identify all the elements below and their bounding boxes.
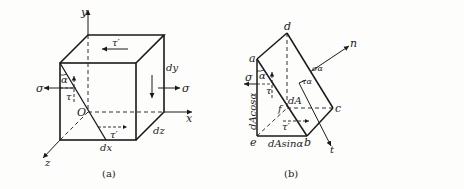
figure-b — [244, 33, 349, 146]
stress-element-figure: y x z O dx dy dz σ σ τ τ′ τ′ α (a) — [0, 0, 464, 189]
n-axis-label: n — [350, 37, 357, 50]
sigma-right-label: σ — [182, 82, 190, 95]
vertex-a: a — [249, 52, 256, 65]
tau-prime-bottom-label: τ′ — [110, 129, 119, 140]
x-axis-label: x — [186, 112, 193, 125]
origin-label: O — [77, 106, 86, 119]
dy-label: dy — [166, 62, 178, 73]
z-axis — [43, 140, 60, 158]
vertical-edge-label: dAcosα — [247, 93, 258, 130]
vertex-e: e — [250, 136, 257, 149]
caption-a: (a) — [102, 168, 116, 179]
edge-cb — [307, 108, 333, 136]
tau-prime-top-label: τ′ — [112, 37, 121, 48]
tau-prime-label-b: τ′ — [282, 121, 291, 132]
tau-left-label: τ — [66, 91, 72, 102]
alpha-label-b: α — [259, 70, 266, 81]
t-axis-label: t — [330, 144, 335, 155]
horizontal-edge-label: dAsinα — [268, 138, 303, 149]
vertex-d: d — [284, 20, 291, 33]
dx-label: dx — [100, 142, 112, 153]
area-label: dA — [288, 95, 302, 106]
z-axis-label: z — [44, 157, 51, 168]
tau-label-b: τ — [266, 85, 272, 96]
dz-label: dz — [153, 125, 165, 136]
sigma-left-label: σ — [36, 82, 44, 95]
vertex-c: c — [335, 102, 341, 115]
sigma-alpha-label: σα — [312, 64, 323, 73]
tau-alpha-label: τα — [302, 77, 312, 86]
vertex-b: b — [304, 136, 311, 149]
alpha-label: α — [61, 74, 68, 85]
caption-b: (b) — [284, 168, 298, 179]
sigma-label-b: σ — [245, 71, 253, 84]
y-axis-label: y — [80, 6, 88, 19]
edge-da — [257, 33, 287, 59]
diagram-svg: y x z O dx dy dz σ σ τ τ′ τ′ α (a) — [0, 0, 464, 189]
figure-b-labels: d a c b e f n t σ τ τ′ α σα τα dA dAcosα… — [245, 20, 357, 179]
